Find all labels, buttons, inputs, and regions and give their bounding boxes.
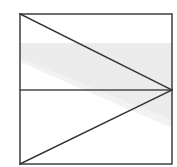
- geometric-figure: [0, 0, 177, 167]
- figure-container: [0, 0, 177, 167]
